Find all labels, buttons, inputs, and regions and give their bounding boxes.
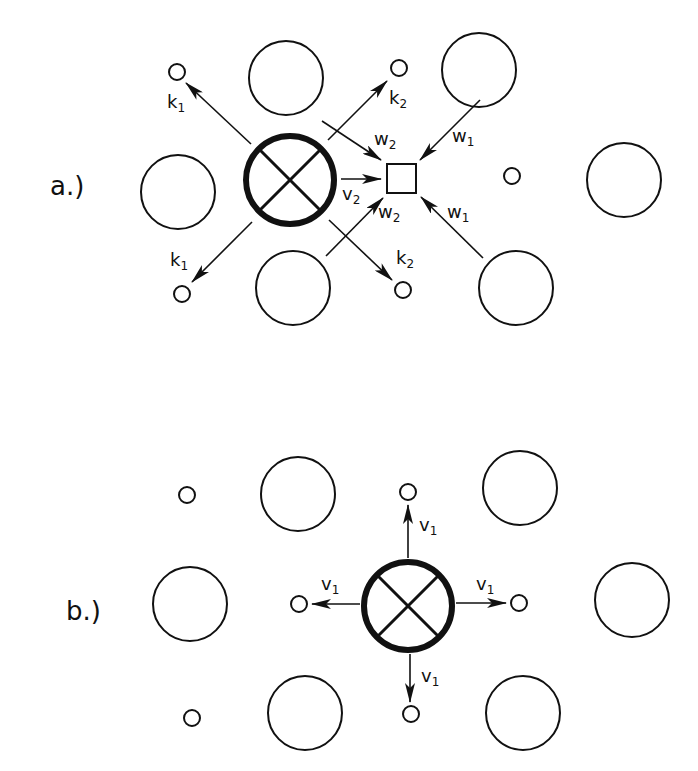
label-v2: v2 (342, 183, 360, 207)
host-atom (261, 457, 335, 531)
interstitial-site (511, 595, 527, 611)
host-atom (479, 251, 553, 325)
arrow-k1-upper (186, 83, 251, 144)
label-w2-upper: w2 (374, 128, 396, 152)
arrow-w1-upper (420, 100, 480, 160)
label-k2-lower: k2 (396, 247, 414, 271)
host-atom (249, 41, 323, 115)
diffusion-diagram: a.) (0, 0, 698, 771)
label-w1-lower: w1 (447, 201, 469, 225)
interstitial-site (395, 282, 411, 298)
label-v1-left: v1 (321, 573, 339, 597)
label-v1-right: v1 (476, 573, 494, 597)
host-atom (153, 567, 227, 641)
label-k1-upper: k1 (167, 91, 185, 115)
label-k2-upper: k2 (389, 87, 407, 111)
arrow-w2-upper (322, 121, 381, 160)
host-atom (486, 676, 560, 750)
interstitial-site (179, 487, 195, 503)
interstitial-sites-b (179, 484, 527, 726)
arrow-k2-lower (329, 220, 392, 280)
host-atom (587, 143, 661, 217)
interstitial-site (504, 168, 520, 184)
host-atom (141, 155, 215, 229)
label-v1-down: v1 (421, 665, 439, 689)
panel-b: b.) v1 (66, 451, 669, 750)
label-k1-lower: k1 (170, 249, 188, 273)
host-atom (268, 676, 342, 750)
interstitial-site (184, 710, 200, 726)
crossed-solute-atom-b (364, 562, 452, 650)
panel-a: a.) (50, 33, 661, 325)
interstitial-site (174, 286, 190, 302)
host-atom (595, 563, 669, 637)
interstitial-site (169, 64, 185, 80)
interstitial-site (291, 596, 307, 612)
interstitial-site (403, 706, 419, 722)
host-atom (442, 33, 516, 107)
host-atom (483, 451, 557, 525)
crossed-solute-atom-a (246, 136, 334, 224)
label-v1-up: v1 (419, 514, 437, 538)
panel-a-label: a.) (50, 171, 84, 201)
label-w2-lower: w2 (378, 201, 400, 225)
arrow-k1-lower (192, 222, 252, 282)
interstitial-sites-a (169, 60, 520, 302)
host-atoms-a (141, 33, 661, 325)
vacancy-square (387, 164, 416, 193)
interstitial-site (391, 60, 407, 76)
interstitial-site (400, 484, 416, 500)
label-w1-upper: w1 (452, 125, 474, 149)
panel-b-label: b.) (66, 596, 101, 626)
host-atom (256, 251, 330, 325)
